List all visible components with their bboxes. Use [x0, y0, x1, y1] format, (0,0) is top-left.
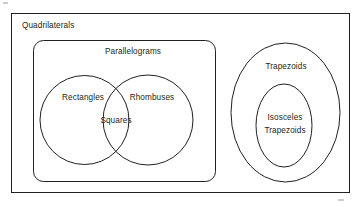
label-trapezoids: Trapezoids: [265, 62, 306, 72]
label-isosceles-trapezoids: Isosceles Trapezoids: [264, 112, 305, 137]
label-squares: Squares: [100, 116, 131, 126]
parallelograms-boundary: [34, 41, 216, 182]
label-isosceles-trapezoids-line1: Isosceles: [264, 112, 305, 125]
venn-diagram-canvas: Quadrilaterals Parallelograms Rectangles…: [0, 0, 360, 207]
label-rhombuses: Rhombuses: [130, 93, 175, 103]
scan-speck-top-left: [3, 2, 8, 4]
label-rectangles: Rectangles: [62, 93, 104, 103]
label-parallelograms: Parallelograms: [105, 47, 161, 57]
label-quadrilaterals: Quadrilaterals: [22, 21, 74, 31]
label-isosceles-trapezoids-line2: Trapezoids: [264, 124, 305, 137]
scan-speck-bottom-right: [338, 199, 344, 201]
venn-diagram-shapes: [0, 0, 360, 207]
